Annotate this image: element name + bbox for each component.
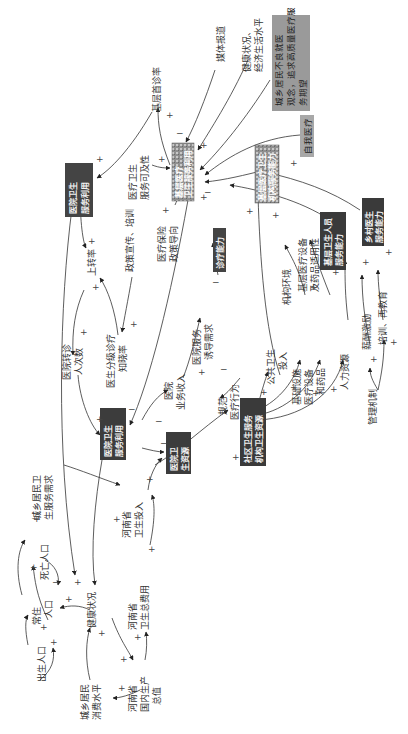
sign-plus: + (166, 110, 174, 120)
node-label: 投入 (277, 352, 288, 370)
node-label: 管理机制 (367, 389, 378, 425)
node-guifan-xingwei: 规范 医疗行为 (217, 384, 240, 420)
node-label: 薪酬激励 (361, 314, 372, 350)
edge (26, 615, 28, 645)
node-label: 服务利用 (114, 425, 124, 457)
node-label: 社区卫生服务 (243, 414, 253, 464)
sign-plus: + (96, 154, 104, 164)
edge (186, 70, 215, 142)
node-label: 医院服务 (191, 329, 202, 365)
node-label: 基层卫生人员 (323, 218, 333, 267)
edge (78, 375, 100, 435)
node-label: 人口 (44, 600, 54, 618)
sign-plus: + (96, 414, 104, 424)
node-xiaofei-shuiping: 城乡居民 消费水平 (80, 684, 102, 720)
node-label: 诱导需求 (203, 324, 214, 360)
sign-plus: + (272, 210, 280, 220)
sign-plus: + (74, 577, 82, 587)
node-label: 总值 (151, 687, 162, 705)
sign-plus: + (33, 514, 41, 524)
node-jiceng-shouzhen: 基层首诊率 (151, 67, 162, 112)
box-yiyuan-ziyuan-service: 医院卫生 服务利用 (100, 408, 126, 460)
node-label: 医疗卫生 (127, 164, 138, 200)
sign-plus: + (232, 452, 240, 462)
edge (198, 60, 248, 150)
box-jiceng-nengli: 基层医疗卫生 机构服务能力 (255, 145, 279, 203)
node-label: 乡村医生 (364, 211, 374, 243)
box-cunyi: 乡村医生 服务能力 (362, 198, 384, 246)
node-label: 服务能力 (334, 234, 344, 266)
sign-plus: + (50, 637, 58, 647)
node-label: 河南省 (121, 511, 132, 538)
node-label: 诊疗能力 (215, 237, 225, 269)
node-label: 基层医疗卫生 (257, 153, 267, 202)
sign-minus: − (155, 416, 163, 426)
sign-plus: + (92, 282, 100, 292)
causal-loop-diagram: 基层首诊率 媒体报道 健康状况、 经济生活水平 医疗卫生 服务可及性 政策宣传、… (0, 0, 408, 734)
node-label: 自我医疗 (303, 118, 313, 154)
sign-plus: + (332, 267, 340, 277)
node-yiliao-kejixing: 医疗卫生 服务可及性 (127, 155, 150, 200)
sign-plus: + (130, 319, 138, 329)
sign-plus: + (30, 562, 38, 572)
edge (230, 185, 330, 220)
node-siwang-renkou: 死亡人口 (39, 544, 50, 580)
edge (150, 495, 154, 545)
edge (93, 460, 102, 585)
sign-plus: + (40, 622, 48, 632)
node-label: 生服务需求 (43, 475, 54, 520)
node-renli-ziyuan: 人力资源 (339, 354, 350, 390)
node-label: 政策宣传、培训 (124, 209, 135, 272)
box-guannian: 城乡居民不良就医 观念，追求高质量医疗服 务期望 (272, 7, 310, 111)
sign-minus: − (204, 187, 212, 197)
node-meiti-baodao: 媒体报道 (215, 26, 226, 62)
sign-plus: + (284, 292, 292, 302)
box-jiceng-renyuan: 基层卫生人员 服务能力 (320, 212, 346, 270)
node-label: 医院卫 (169, 447, 179, 471)
sign-minus: − (52, 577, 60, 587)
edge (370, 368, 378, 390)
sign-plus: + (362, 257, 370, 267)
edges (18, 60, 384, 698)
node-label: 人力资源 (339, 354, 350, 390)
node-label: 城乡居民不良就医 (274, 34, 284, 106)
node-label: 公共卫生 (265, 349, 276, 385)
node-label: 卫生服务利用 (183, 150, 193, 198)
node-label: 观念，追求高质量医疗服 (286, 7, 296, 106)
edge (60, 606, 90, 610)
sign-plus: + (385, 247, 393, 257)
sign-plus: + (146, 474, 154, 484)
node-label: 河南省 (127, 603, 138, 630)
box-jiceng-ziyuan: 社区卫生服务 机构卫生资源 (240, 398, 266, 466)
node-peixun: 培训、再教育 (377, 291, 388, 345)
sign-plus: + (390, 337, 398, 347)
node-label: 生资源 (180, 447, 190, 471)
edge (205, 135, 300, 175)
node-fenji-zhixiao: 医生分级诊疗 知晓率 (105, 334, 128, 388)
node-label: 机构卫生资源 (254, 415, 264, 463)
sign-plus: + (290, 382, 298, 392)
box-zhenliao-nengli: 诊疗能力 (213, 228, 226, 272)
node-henan-gdp: 河南省 国内生产 总值 (127, 676, 162, 712)
node-label: 医疗行为 (229, 384, 240, 420)
sign-minus: − (128, 404, 136, 414)
node-yiyuan-youdao: 医院服务 诱导需求 (191, 324, 214, 365)
edge (18, 540, 25, 595)
sign-plus: + (120, 654, 128, 664)
node-yiyuan-shouru: 医院 业务收入 (163, 374, 186, 410)
node-chusheng-renkou: 出生人口 (36, 646, 47, 682)
node-label: 医院 (163, 382, 174, 400)
node-label: 医院卫生 (103, 425, 113, 457)
node-henan-touru: 河南省 卫生投入 (121, 502, 144, 538)
node-label: 医疗设备 (303, 369, 314, 405)
edge (64, 465, 120, 485)
edge (87, 628, 90, 680)
sign-plus: + (148, 544, 156, 554)
node-label: 服务可及性 (139, 155, 150, 200)
edge (152, 165, 170, 168)
edge (100, 278, 118, 335)
sign-plus: + (260, 387, 268, 397)
node-label: 基层医疗 (174, 166, 184, 199)
node-label: 业务收入 (175, 374, 186, 410)
node-label: 媒体报道 (215, 26, 226, 62)
